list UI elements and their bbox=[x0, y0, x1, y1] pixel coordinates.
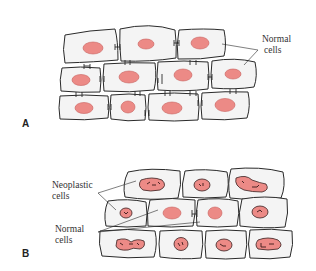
nucleus bbox=[191, 37, 209, 49]
panel-b: Neoplastic cells Normal cells B bbox=[22, 168, 293, 259]
leader-line bbox=[222, 44, 258, 50]
nucleus bbox=[83, 42, 103, 54]
label-neoplastic-cells-line1: Neoplastic bbox=[52, 180, 93, 190]
neoplastic-nucleus bbox=[139, 178, 164, 191]
nucleus bbox=[215, 99, 235, 112]
nucleus bbox=[72, 75, 90, 86]
panel-letter-a: A bbox=[22, 118, 29, 129]
label-normal-cells-b-line1: Normal bbox=[55, 224, 84, 234]
nucleus bbox=[162, 102, 182, 114]
nucleus bbox=[174, 69, 192, 81]
label-normal-cells-a-line2: cells bbox=[264, 45, 282, 55]
nucleus bbox=[208, 207, 222, 219]
nucleus bbox=[119, 71, 139, 83]
neoplastic-nucleus bbox=[252, 206, 268, 218]
cell-diagram: Normal cells A bbox=[0, 0, 316, 271]
label-normal-cells-b-line2: cells bbox=[55, 235, 73, 245]
panel-a: Normal cells A bbox=[22, 26, 291, 129]
neoplastic-nucleus bbox=[174, 238, 188, 251]
neoplastic-nucleus bbox=[216, 239, 232, 251]
nucleus bbox=[225, 69, 241, 79]
neoplastic-nucleus bbox=[256, 238, 281, 250]
panel-letter-b: B bbox=[22, 248, 29, 259]
nucleus bbox=[163, 207, 181, 219]
label-normal-cells-a-line1: Normal bbox=[262, 34, 291, 44]
nucleus bbox=[121, 101, 135, 113]
neoplastic-nucleus bbox=[120, 208, 132, 218]
label-neoplastic-cells-line2: cells bbox=[52, 191, 70, 201]
nucleus bbox=[75, 103, 93, 114]
nucleus bbox=[138, 39, 154, 49]
neoplastic-nucleus bbox=[194, 179, 210, 191]
